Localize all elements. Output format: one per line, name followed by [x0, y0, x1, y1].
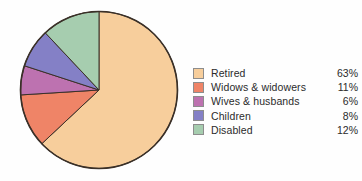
legend-swatch-retired — [193, 68, 204, 79]
legend-label-children: Children — [211, 109, 328, 123]
legend-value-widows-widowers: 11% — [328, 80, 358, 94]
legend-label-widows-widowers: Widows & widowers — [211, 80, 328, 94]
legend-item-wives-husbands[interactable]: Wives & husbands 6% — [193, 94, 358, 108]
pie-chart-svg — [17, 8, 181, 172]
pie-chart-plot-area — [17, 8, 181, 172]
legend-item-disabled[interactable]: Disabled 12% — [193, 123, 358, 137]
legend-label-disabled: Disabled — [211, 123, 328, 137]
legend-swatch-widows-widowers — [193, 82, 204, 93]
legend-swatch-wives-husbands — [193, 96, 204, 107]
chart-legend: Retired 63% Widows & widowers 11% Wives … — [193, 66, 358, 137]
legend-swatch-children — [193, 110, 204, 121]
pie-chart-figure: Retired 63% Widows & widowers 11% Wives … — [0, 0, 362, 181]
legend-item-widows-widowers[interactable]: Widows & widowers 11% — [193, 80, 358, 94]
legend-label-retired: Retired — [211, 66, 328, 80]
legend-swatch-disabled — [193, 124, 204, 135]
legend-value-wives-husbands: 6% — [328, 94, 358, 108]
legend-value-children: 8% — [328, 109, 358, 123]
legend-value-retired: 63% — [328, 66, 358, 80]
legend-value-disabled: 12% — [328, 123, 358, 137]
legend-item-children[interactable]: Children 8% — [193, 109, 358, 123]
legend-item-retired[interactable]: Retired 63% — [193, 66, 358, 80]
legend-label-wives-husbands: Wives & husbands — [211, 94, 328, 108]
